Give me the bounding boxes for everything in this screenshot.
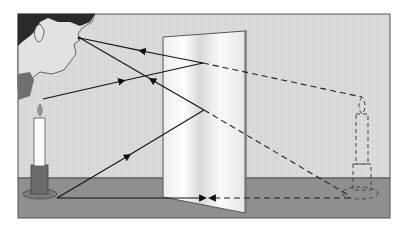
plane-mirror <box>163 31 247 213</box>
candle-body <box>34 118 45 166</box>
diagram-canvas <box>0 0 414 229</box>
candle-holder <box>31 165 48 194</box>
mirror-diagram <box>0 0 414 229</box>
